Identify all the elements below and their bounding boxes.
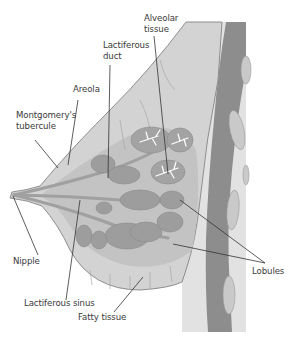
label-lactiferous-sinus: Lactiferous sinus [24,298,95,309]
label-montgomerys-tubercule: Montgomery's tubercule [16,110,76,132]
label-areola: Areola [73,84,100,95]
label-fatty-tissue: Fatty tissue [78,312,126,323]
label-alveolar-tissue: Alveolar tissue [144,13,178,35]
label-lactiferous-duct: Lactiferous duct [103,40,149,62]
label-nipple: Nipple [13,256,40,267]
label-lobules: Lobules [252,266,284,277]
breast-anatomy-diagram: Alveolar tissue Lactiferous duct Areola … [0,0,293,343]
